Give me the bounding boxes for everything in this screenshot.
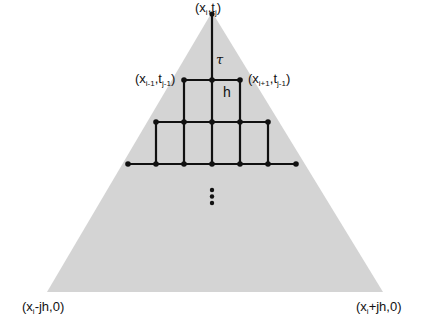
x-sub: i+1 [259, 79, 270, 88]
diagram-canvas [0, 0, 421, 331]
x-sub: i-1 [146, 79, 155, 88]
left-point-label: (xi-1,tj-1) [135, 72, 175, 91]
bottom-right-label: (xi+jh,0) [356, 300, 402, 319]
h-label: h [223, 84, 231, 100]
vertical-ellipsis [210, 188, 214, 205]
offset-text: -jh,0 [35, 299, 60, 314]
paren: ) [286, 71, 290, 86]
dependence-triangle [47, 12, 383, 292]
apex-label: (xi,tj) [195, 1, 221, 20]
paren: ) [217, 0, 221, 15]
right-point-label: (xi+1,tj-1) [248, 72, 290, 91]
offset-text: +jh,0 [369, 299, 398, 314]
paren: ) [397, 299, 401, 314]
tau-label: τ [216, 52, 223, 67]
paren: ) [171, 71, 175, 86]
t-sub: j-1 [277, 79, 286, 88]
bottom-left-label: (xi-jh,0) [22, 300, 64, 319]
t-sub: j-1 [162, 79, 171, 88]
paren: ) [60, 299, 64, 314]
